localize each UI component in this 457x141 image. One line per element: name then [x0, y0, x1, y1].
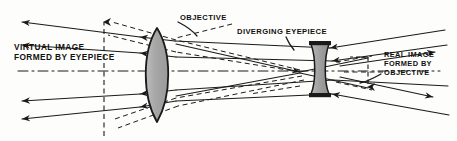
- label-virtual-image-line2: FORMED BY EYEPIECE: [14, 52, 115, 62]
- label-real-image: REAL IMAGE FORMED BY OBJECTIVE: [384, 50, 434, 77]
- label-diverging-eyepiece-line1: DIVERGING EYEPIECE: [237, 27, 327, 36]
- objective-lens: [146, 28, 169, 122]
- label-objective: OBJECTIVE: [180, 13, 227, 22]
- eyepiece-pointer: [286, 37, 294, 50]
- objective-pointer: [178, 22, 197, 36]
- label-real-image-line3: OBJECTIVE: [384, 68, 434, 77]
- label-real-image-line1: REAL IMAGE: [384, 50, 434, 59]
- label-real-image-line2: FORMED BY: [384, 59, 434, 68]
- label-diverging-eyepiece: DIVERGING EYEPIECE: [237, 27, 327, 36]
- label-virtual-image-line1: VIRTUAL IMAGE: [14, 42, 115, 52]
- label-virtual-image: VIRTUAL IMAGE FORMED BY EYEPIECE: [14, 42, 115, 62]
- ray-bundle-lower: [22, 80, 449, 119]
- optics-diagram: VIRTUAL IMAGE FORMED BY EYEPIECE OBJECTI…: [0, 0, 457, 141]
- label-objective-line1: OBJECTIVE: [180, 13, 227, 22]
